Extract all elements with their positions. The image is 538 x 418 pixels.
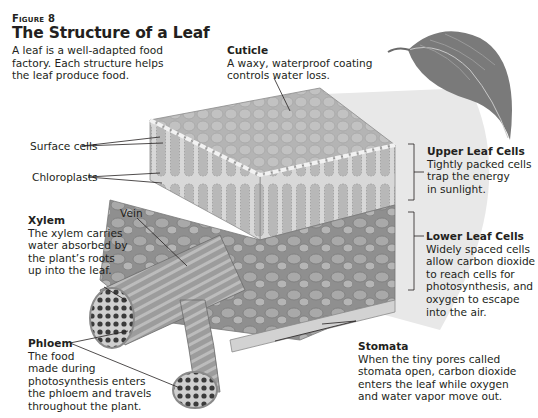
label-line: to reach cells for [426, 268, 535, 281]
label-title: Lower Leaf Cells [426, 230, 535, 243]
label-line: and water vapor move out. [358, 390, 516, 403]
label-title: Phloem [28, 337, 151, 350]
label-line: water absorbed by [28, 239, 127, 252]
label-cuticle: Cuticle A waxy, waterproof coating contr… [227, 44, 372, 82]
label-line: stomata open, carbon dioxide [358, 365, 516, 378]
label-line: made during [28, 362, 151, 375]
label-line: oxygen to escape [426, 293, 535, 306]
label-title: Cuticle [227, 44, 372, 57]
label-line: photosynthesis, and [426, 280, 535, 293]
label-line: the phloem and travels [28, 387, 151, 400]
label-title: Upper Leaf Cells [427, 145, 531, 158]
label-surface-cells: Surface cells [30, 140, 97, 152]
label-line: The food [28, 350, 151, 363]
label-line: enters the leaf while oxygen [358, 378, 516, 391]
label-line: in sunlight. [427, 183, 531, 196]
label-title: Stomata [358, 340, 516, 353]
figure-intro: A leaf is a well-adapted food factory. E… [12, 44, 187, 82]
label-chloroplasts: Chloroplasts [32, 171, 98, 183]
label-line: the plant’s roots [28, 252, 127, 265]
label-line: allow carbon dioxide [426, 255, 535, 268]
figure-title: The Structure of a Leaf [12, 24, 210, 42]
label-xylem: Xylem The xylem carries water absorbed b… [28, 214, 127, 277]
label-line: Widely spaced cells [426, 243, 535, 256]
label-upper-leaf-cells: Upper Leaf Cells Tightly packed cells tr… [427, 145, 531, 195]
intro-line: the leaf produce food. [12, 69, 187, 82]
label-stomata: Stomata When the tiny pores called stoma… [358, 340, 516, 403]
label-line: trap the energy [427, 170, 531, 183]
label-line: Tightly packed cells [427, 158, 531, 171]
label-phloem: Phloem The food made during photosynthes… [28, 337, 151, 413]
label-line: A waxy, waterproof coating [227, 57, 372, 70]
label-line: The xylem carries [28, 227, 127, 240]
label-title: Xylem [28, 214, 127, 227]
label-line: throughout the plant. [28, 400, 151, 413]
figure-number: Figure 8 [12, 13, 55, 24]
label-line: When the tiny pores called [358, 353, 516, 366]
label-line: up into the leaf. [28, 264, 127, 277]
label-line: controls water loss. [227, 69, 372, 82]
label-line: into the air. [426, 306, 535, 319]
intro-line: factory. Each structure helps [12, 57, 187, 70]
intro-line: A leaf is a well-adapted food [12, 44, 187, 57]
label-lower-leaf-cells: Lower Leaf Cells Widely spaced cells all… [426, 230, 535, 318]
label-line: photosynthesis enters [28, 375, 151, 388]
